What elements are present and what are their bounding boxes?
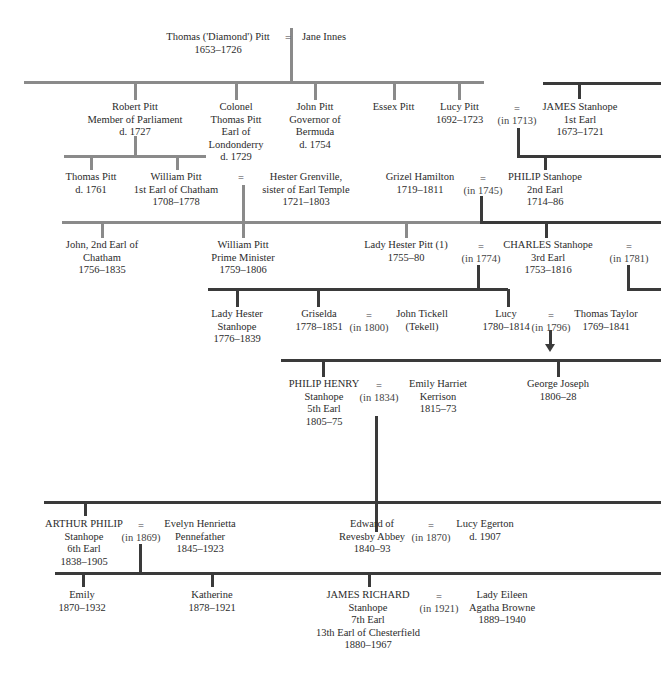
line-edward (375, 502, 378, 516)
line-1774-down (477, 265, 480, 289)
person-essex-pitt: Essex Pitt (366, 101, 421, 114)
line-1834-children (44, 501, 661, 504)
person-john-2nd-earl-chatham: John, 2nd Earl of Chatham 1756–1835 (58, 239, 146, 277)
line-lady-hester-pitt (405, 222, 408, 238)
person-george-joseph: George Joseph 1806–28 (516, 378, 600, 403)
person-jane-innes: Jane Innes (302, 31, 346, 44)
person-charles-stanhope: CHARLES Stanhope 3rd Earl 1753–1816 (502, 239, 594, 277)
line-james-parents (543, 82, 661, 85)
person-james-stanhope: JAMES Stanhope 1st Earl 1673–1721 (540, 101, 620, 139)
line-1796-children (281, 359, 661, 362)
line-lucy (458, 82, 461, 100)
line-robert-children (64, 155, 206, 158)
person-emily: Emily 1870–1932 (54, 589, 110, 614)
line-1713-down (517, 128, 520, 156)
person-lucy-stanhope: Lucy 1780–1814 (480, 308, 532, 333)
line-1869-down (139, 544, 142, 573)
line-james-richard (368, 573, 371, 587)
person-grizel-hamilton: Grizel Hamilton 1719–1811 (380, 171, 460, 196)
line-arthur (84, 502, 87, 516)
line-emily (82, 573, 85, 587)
line-lucy-stanhope (507, 289, 510, 307)
marriage-1800: = (in 1800) (344, 310, 394, 334)
person-philip-stanhope: PHILIP Stanhope 2nd Earl 1714–86 (503, 171, 587, 209)
person-james-richard: JAMES RICHARD Stanhope 7th Earl 13th Ear… (310, 589, 426, 652)
line-john (314, 82, 317, 100)
line-chatham-down (242, 185, 245, 238)
person-evelyn-pennefather: Evelyn Henrietta Pennefather 1845–1923 (156, 518, 244, 556)
line-philip-henry (322, 360, 325, 377)
person-lucy-pitt: Lucy Pitt 1692–1723 (432, 101, 487, 126)
marriage-1745: = (in 1745) (458, 173, 508, 197)
person-colonel-thomas-pitt: Colonel Thomas Pitt Earl of Londonderry … (206, 101, 266, 164)
line-colonel (235, 82, 238, 100)
marriage-diamond: = (285, 32, 291, 44)
person-lucy-egerton: Lucy Egerton d. 1907 (449, 518, 521, 543)
person-william-pitt-chatham: William Pitt 1st Earl of Chatham 1708–17… (130, 171, 222, 209)
name: Thomas ('Diamond') Pitt (148, 31, 288, 44)
line-1713-children (517, 155, 661, 158)
marriage-chatham: = (238, 172, 244, 184)
line-griselda (317, 289, 320, 307)
person-robert-pitt: Robert Pitt Member of Parliament d. 1727 (80, 101, 190, 139)
line-charles (545, 222, 548, 238)
person-edward-revesby: Edward of Revesby Abbey 1840–93 (334, 518, 410, 556)
person-emily-kerrison: Emily Harriet Kerrison 1815–73 (398, 378, 478, 416)
person-john-tickell: John Tickell (Tekell) (390, 308, 454, 333)
person-lady-eileen: Lady Eileen Agatha Browne 1889–1940 (462, 589, 542, 627)
dates: 1653–1726 (148, 44, 288, 57)
marriage-1713: = (in 1713) (491, 103, 543, 127)
line-katherine (211, 573, 214, 587)
line-james (578, 83, 581, 99)
person-griselda: Griselda 1778–1851 (293, 308, 345, 333)
person-thomas-pitt-1761: Thomas Pitt d. 1761 (62, 171, 120, 196)
line-thomas1761 (90, 156, 93, 170)
marriage-1834: = (in 1834) (354, 380, 404, 404)
person-thomas-taylor: Thomas Taylor 1769–1841 (568, 308, 644, 333)
person-hester-grenville: Hester Grenville, sister of Earl Temple … (254, 171, 358, 209)
line-robert (134, 82, 137, 100)
line-philip (544, 156, 547, 170)
person-lady-hester-pitt: Lady Hester Pitt (1) 1755–80 (360, 239, 452, 264)
marriage-1774: = (in 1774) (456, 241, 506, 265)
line-essex (393, 82, 396, 100)
marriage-1921: = (in 1921) (414, 591, 464, 615)
line-diamond-children (24, 81, 484, 84)
line-john-chatham (101, 222, 104, 238)
line-1869-children (55, 572, 661, 575)
arrow-down-icon (545, 344, 555, 352)
line-robert-down (134, 136, 137, 156)
line-1745-children (480, 221, 661, 224)
line-1781-right (627, 288, 661, 291)
line-george-joseph (557, 360, 560, 377)
person-lady-hester-stanhope: Lady Hester Stanhope 1776–1839 (206, 308, 268, 346)
line-1774-children (208, 288, 508, 291)
line-1781-down (627, 265, 630, 289)
line-chatham-children (62, 221, 494, 224)
person-john-pitt: John Pitt Governor of Bermuda d. 1754 (285, 101, 345, 151)
line-lady-hester-stanhope (236, 289, 239, 307)
line-1745-down (480, 196, 483, 222)
person-william-pitt-pm: William Pitt Prime Minister 1759–1806 (208, 239, 278, 277)
person-thomas-diamond-pitt: Thomas ('Diamond') Pitt 1653–1726 (148, 31, 288, 56)
line-william-chatham (176, 156, 179, 170)
marriage-1781: = (in 1781) (604, 241, 654, 265)
person-katherine: Katherine 1878–1921 (184, 589, 240, 614)
